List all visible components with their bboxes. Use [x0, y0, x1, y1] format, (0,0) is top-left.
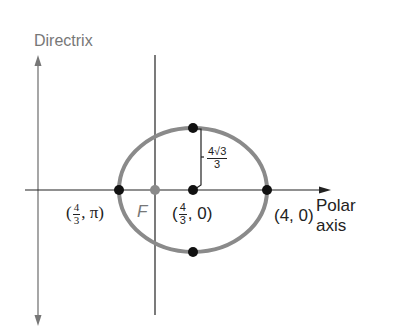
minor-vertex-top-point	[188, 123, 198, 133]
center-label: (43, 0)	[172, 202, 212, 226]
fraction: 43	[179, 202, 187, 226]
minor-vertex-bottom-point	[188, 247, 198, 257]
vertex-left-point	[114, 185, 124, 195]
focus-label: F	[137, 203, 147, 220]
vertex-right-point	[262, 185, 272, 195]
polar-axis-arrow-icon	[319, 187, 331, 194]
semi-minor-bracket	[195, 129, 201, 189]
directrix-label: Directrix	[34, 33, 93, 49]
vertex-left-label: (43, π)	[66, 202, 104, 226]
fraction: 4√33	[207, 146, 227, 170]
vertex-right-label: (4, 0)	[274, 207, 314, 224]
directrix-arrow-down-icon	[35, 315, 42, 326]
polar-axis-label-line2: axis	[316, 217, 356, 234]
polar-axis-label-line1: Polar	[316, 197, 356, 214]
ellipse-diagram	[0, 0, 400, 332]
focus-point	[150, 185, 160, 195]
fraction: 43	[73, 202, 81, 226]
polar-axis-label: Polar axis	[316, 197, 356, 234]
center-point	[188, 185, 198, 195]
directrix-arrow-up-icon	[35, 55, 42, 66]
semi-minor-label: 4√33	[206, 146, 228, 170]
